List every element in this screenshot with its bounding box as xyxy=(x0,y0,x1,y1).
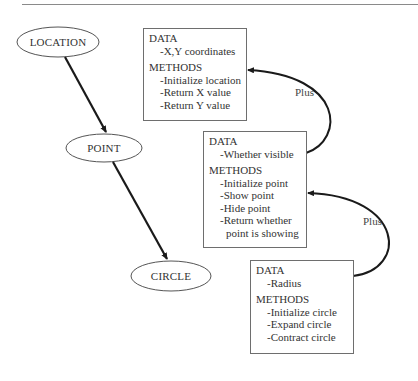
methods-heading: METHODS xyxy=(149,61,241,74)
data-heading: DATA xyxy=(209,135,301,148)
methods-heading: METHODS xyxy=(209,164,301,177)
method-item: -Initialize circle xyxy=(267,306,348,319)
arrow-point-to-circle xyxy=(113,162,167,259)
arrow-location-to-point xyxy=(65,57,106,132)
point-class-box: DATA -Whether visible METHODS -Initializ… xyxy=(203,131,307,248)
data-item: -X,Y coordinates xyxy=(160,45,241,58)
methods-section: METHODS -Initialize circle -Expand circl… xyxy=(256,293,348,343)
method-item: -Expand circle xyxy=(267,318,348,331)
data-section: DATA -Whether visible xyxy=(209,135,301,160)
method-item: -Return Y value xyxy=(160,99,241,112)
methods-section: METHODS -Initialize location -Return X v… xyxy=(149,61,241,111)
methods-heading: METHODS xyxy=(256,293,348,306)
plus-label: Plus xyxy=(295,86,314,98)
method-item: -Contract circle xyxy=(267,331,348,344)
method-item: -Show point xyxy=(220,189,301,202)
data-heading: DATA xyxy=(149,32,241,45)
method-item: -Hide point xyxy=(220,202,301,215)
method-item: -Return whether point is showing xyxy=(220,214,301,239)
method-item: -Initialize point xyxy=(220,177,301,190)
location-class-box: DATA -X,Y coordinates METHODS -Initializ… xyxy=(143,28,247,121)
data-item: -Radius xyxy=(267,277,348,290)
method-item-continuation: point is showing xyxy=(220,227,301,240)
plus-label: Plus xyxy=(363,215,382,227)
circle-node-label: CIRCLE xyxy=(131,267,211,285)
data-section: DATA -Radius xyxy=(256,264,348,289)
method-item-line: -Return whether xyxy=(220,214,292,226)
method-item: -Initialize location xyxy=(160,74,241,87)
data-heading: DATA xyxy=(256,264,348,277)
point-node-label: POINT xyxy=(66,139,142,157)
methods-section: METHODS -Initialize point -Show point -H… xyxy=(209,164,301,239)
data-section: DATA -X,Y coordinates xyxy=(149,32,241,57)
circle-class-box: DATA -Radius METHODS -Initialize circle … xyxy=(250,260,354,354)
method-item: -Return X value xyxy=(160,86,241,99)
data-item: -Whether visible xyxy=(220,148,301,161)
location-node-label: LOCATION xyxy=(17,33,99,51)
